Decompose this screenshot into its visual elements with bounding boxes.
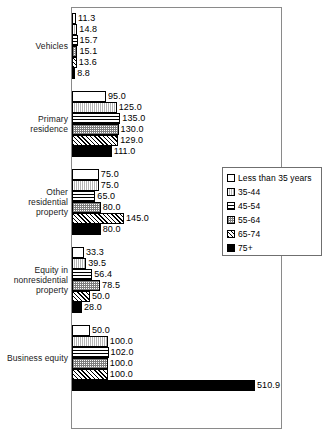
bar — [72, 180, 99, 191]
legend-swatch-icon — [227, 174, 235, 182]
bar — [72, 24, 77, 35]
legend-item-label: Less than 35 years — [238, 174, 312, 183]
bar — [72, 46, 77, 57]
bar — [72, 135, 118, 146]
legend-item-label: 35-44 — [238, 188, 260, 197]
bar — [72, 269, 92, 280]
bar — [72, 280, 100, 291]
bar-value-label: 100.0 — [110, 369, 133, 380]
bar-value-label: 100.0 — [110, 358, 133, 369]
bar-value-label: 50.0 — [92, 325, 110, 336]
legend-item[interactable]: 35-44 — [227, 185, 321, 199]
bar — [72, 191, 95, 202]
legend-item-label: 55-64 — [238, 216, 260, 225]
bar-value-label: 125.0 — [119, 102, 142, 113]
legend-item[interactable]: 45-54 — [227, 199, 321, 213]
chart-legend: Less than 35 years35-4445-5455-6465-7475… — [222, 167, 322, 256]
legend-item[interactable]: 55-64 — [227, 213, 321, 227]
bar — [72, 68, 75, 79]
bar-value-label: 33.3 — [86, 247, 104, 258]
bar — [72, 247, 84, 258]
category-label: Other residential property — [28, 187, 68, 217]
category-label: Primary residence — [30, 114, 68, 134]
bar-value-label: 145.0 — [126, 213, 149, 224]
bar — [72, 336, 108, 347]
bar — [72, 169, 99, 180]
bar — [72, 302, 82, 313]
category-label: Business equity — [7, 353, 68, 363]
category-label: Vehicles — [36, 41, 68, 51]
bar-value-label: 130.0 — [121, 124, 144, 135]
bar — [72, 380, 255, 391]
bar-value-label: 510.9 — [257, 380, 280, 391]
bar — [72, 213, 124, 224]
bar — [72, 102, 117, 113]
bar-value-label: 50.0 — [92, 291, 110, 302]
bar — [72, 202, 101, 213]
legend-item[interactable]: 65-74 — [227, 227, 321, 241]
legend-item-label: 65-74 — [238, 230, 260, 239]
legend-swatch-icon — [227, 202, 235, 210]
bar-value-label: 28.0 — [84, 302, 102, 313]
bar-value-label: 111.0 — [114, 146, 136, 157]
bar — [72, 358, 108, 369]
category-label: Equity in nonresidential property — [14, 265, 68, 295]
bar — [72, 124, 119, 135]
bar — [72, 13, 76, 24]
bar — [72, 224, 101, 235]
legend-swatch-icon — [227, 230, 235, 238]
bar-value-label: 13.6 — [79, 57, 97, 68]
bar-value-label: 78.5 — [102, 280, 120, 291]
legend-swatch-icon — [227, 188, 235, 196]
bar-value-label: 95.0 — [108, 91, 126, 102]
bar-value-label: 135.0 — [122, 113, 145, 124]
bar — [72, 347, 109, 358]
bar-value-label: 100.0 — [110, 336, 133, 347]
bar — [72, 113, 120, 124]
bar — [72, 258, 86, 269]
bar-value-label: 102.0 — [111, 347, 134, 358]
bar — [72, 291, 90, 302]
bar-value-label: 65.0 — [97, 191, 115, 202]
bar — [72, 146, 112, 157]
bar-value-label: 15.7 — [80, 35, 98, 46]
bar — [72, 57, 77, 68]
bar-value-label: 129.0 — [120, 135, 143, 146]
bar-value-label: 75.0 — [101, 169, 119, 180]
bar-value-label: 80.0 — [103, 224, 121, 235]
legend-item-label: 75+ — [238, 244, 253, 253]
bar-value-label: 56.4 — [94, 269, 112, 280]
bar — [72, 35, 78, 46]
bar — [72, 91, 106, 102]
legend-item[interactable]: Less than 35 years — [227, 171, 321, 185]
bar-value-label: 75.0 — [101, 180, 119, 191]
bar-value-label: 39.5 — [88, 258, 106, 269]
legend-swatch-icon — [227, 216, 235, 224]
legend-swatch-icon — [227, 244, 235, 252]
bar-value-label: 11.3 — [78, 13, 95, 24]
bar-value-label: 15.1 — [79, 46, 97, 57]
legend-item-label: 45-54 — [238, 202, 260, 211]
bar-value-label: 8.8 — [77, 68, 90, 79]
bar — [72, 325, 90, 336]
legend-item[interactable]: 75+ — [227, 241, 321, 255]
bar-value-label: 80.0 — [103, 202, 121, 213]
bar — [72, 369, 108, 380]
grouped-bar-chart: VehiclesPrimary residenceOther residenti… — [0, 0, 330, 439]
bar-value-label: 14.8 — [79, 24, 97, 35]
